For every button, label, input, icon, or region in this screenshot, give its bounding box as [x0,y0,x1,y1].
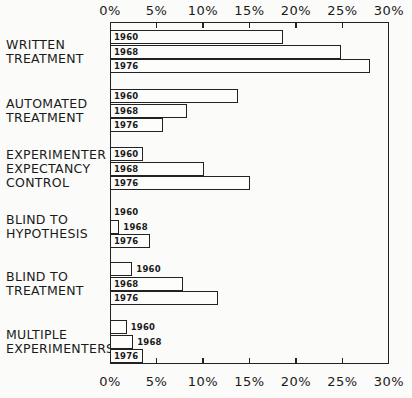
category-label: BLIND TO TREATMENT [6,270,84,298]
x-tick-bottom [295,358,297,364]
x-tick-label-top: 15% [234,3,264,18]
year-label: 1976 [114,59,138,73]
x-tick-label-top: 25% [327,3,357,18]
x-tick-bottom [202,358,204,364]
x-tick-label-bottom: 15% [234,374,264,389]
category-label: WRITTEN TREATMENT [6,38,84,66]
horizontal-bar-chart: 0%0%5%5%10%10%15%15%20%20%25%25%30%30%WR… [0,0,412,398]
x-tick-bottom [156,358,158,364]
plot-frame [110,22,389,364]
year-label: 1960 [114,89,138,103]
year-label: 1960 [114,147,138,161]
bar-1968 [110,335,133,349]
bar-1968 [110,45,341,59]
year-label: 1976 [114,234,138,248]
bar-1968 [110,220,119,234]
x-tick-label-bottom: 25% [327,374,357,389]
x-tick-top [249,22,251,28]
year-label: 1968 [114,45,138,59]
x-tick-label-bottom: 20% [281,374,311,389]
x-tick-label-bottom: 0% [99,374,121,389]
year-label: 1976 [114,291,138,305]
x-tick-label-top: 30% [374,3,404,18]
category-label: MULTIPLE EXPERIMENTERS [6,328,114,356]
x-tick-label-bottom: 5% [146,374,168,389]
year-label: 1968 [114,104,138,118]
category-label: EXPERIMENTER EXPECTANCY CONTROL [6,148,106,190]
x-tick-top [342,22,344,28]
category-label: BLIND TO HYPOTHESIS [6,213,88,241]
bar-1976 [110,59,370,73]
year-label: 1976 [114,118,138,132]
category-label: AUTOMATED TREATMENT [6,97,87,125]
bar-1960 [110,262,132,276]
year-label: 1976 [114,349,138,363]
x-tick-bottom [249,358,251,364]
year-label: 1976 [114,176,138,190]
x-tick-label-top: 10% [188,3,218,18]
x-tick-top [295,22,297,28]
year-label: 1960 [114,30,138,44]
x-tick-label-top: 0% [99,3,121,18]
year-label: 1968 [114,277,138,291]
year-label: 1968 [137,335,161,349]
x-tick-label-top: 20% [281,3,311,18]
year-label: 1968 [114,162,138,176]
x-tick-top [202,22,204,28]
year-label: 1960 [136,262,160,276]
x-tick-bottom [342,358,344,364]
year-label: 1968 [123,220,147,234]
x-tick-top [156,22,158,28]
year-label: 1960 [114,205,138,219]
x-tick-label-top: 5% [146,3,168,18]
bar-1960 [110,320,127,334]
year-label: 1960 [131,320,155,334]
x-tick-label-bottom: 30% [374,374,404,389]
x-tick-label-bottom: 10% [188,374,218,389]
